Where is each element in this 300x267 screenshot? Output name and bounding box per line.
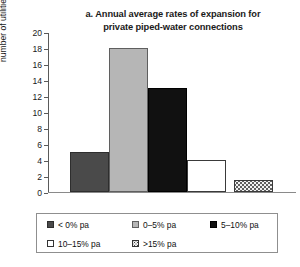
chart-figure: a. Annual average rates of expansion for… [0,0,300,267]
y-tick-label-14: 14 [32,76,42,86]
y-tick-label-4: 4 [37,156,42,166]
bar-10-15pct [187,160,226,192]
legend-item-0-5pct: 0–5% pa [132,220,176,230]
y-tick-label-2: 2 [37,172,42,182]
y-axis-title: number of utilities [0,0,8,62]
legend-swatch-dark-gray-icon [47,221,54,228]
legend-swatch-light-gray-icon [132,221,139,228]
legend-swatch-white-icon [47,240,54,247]
y-tick-label-12: 12 [32,92,42,102]
bar-5-10pct [148,88,187,192]
chart-legend: < 0% pa 0–5% pa 5–10% pa 10–15% pa >15% … [36,213,278,253]
y-tick-label-0: 0 [37,188,42,198]
legend-item-gt-15pct: >15% pa [132,239,176,249]
chart-title-line-1: a. Annual average rates of expansion for [52,8,294,21]
legend-row-2: 10–15% pa >15% pa [37,234,277,253]
legend-item-10-15pct: 10–15% pa [47,239,100,249]
y-axis-line [48,33,49,193]
y-tick-label-18: 18 [32,44,42,54]
y-tick-label-6: 6 [37,140,42,150]
plot-area: 20 18 16 14 12 10 8 6 4 2 0 [48,33,296,193]
legend-row-1: < 0% pa 0–5% pa 5–10% pa [37,215,277,234]
y-tick-label-16: 16 [32,60,42,70]
y-tick-label-10: 10 [32,108,42,118]
legend-label-gt-15pct: >15% pa [143,239,176,249]
bar-gt-15pct [234,180,273,192]
legend-label-lt-0pct: < 0% pa [58,220,89,230]
y-tick-label-20: 20 [32,28,42,38]
legend-label-0-5pct: 0–5% pa [143,220,176,230]
x-axis-baseline [48,192,296,193]
legend-label-5-10pct: 5–10% pa [221,220,259,230]
y-tick-label-8: 8 [37,124,42,134]
legend-swatch-dotted-icon [132,240,139,247]
legend-label-10-15pct: 10–15% pa [58,239,100,249]
legend-item-5-10pct: 5–10% pa [210,220,259,230]
bar-0-5pct [109,48,148,192]
bar-lt-0pct [70,152,109,192]
legend-swatch-black-icon [210,221,217,228]
chart-title: a. Annual average rates of expansion for… [52,8,294,33]
chart-title-line-2: private piped-water connections [52,21,294,34]
legend-item-lt-0pct: < 0% pa [47,220,89,230]
